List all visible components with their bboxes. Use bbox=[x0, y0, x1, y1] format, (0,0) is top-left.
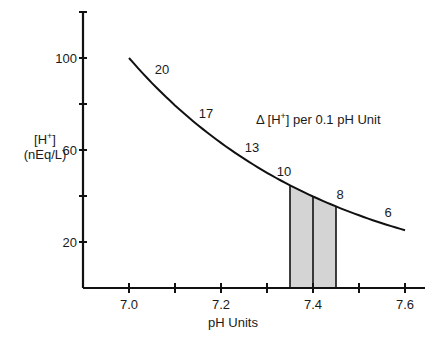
y-tick-label: 100 bbox=[55, 51, 77, 66]
x-tick-label: 7.4 bbox=[304, 297, 322, 312]
series-line-layer bbox=[129, 58, 405, 230]
x-tick-label: 7.0 bbox=[120, 297, 138, 312]
segment-label: 6 bbox=[384, 205, 391, 220]
x-tick-label: 7.2 bbox=[212, 297, 230, 312]
y-axis-title-line1: [H+] bbox=[34, 131, 56, 147]
ticks: 20601007.07.27.47.6 bbox=[55, 12, 414, 312]
x-axis-title: pH Units bbox=[208, 315, 258, 330]
segment-label: 13 bbox=[245, 140, 259, 155]
y-tick-label: 20 bbox=[63, 235, 77, 250]
segment-labels: 2017131086 bbox=[155, 62, 392, 220]
series-line bbox=[129, 58, 405, 230]
annotation-label: Δ [H+] per 0.1 pH Unit bbox=[256, 111, 381, 127]
x-tick-label: 7.6 bbox=[396, 297, 414, 312]
shaded-region bbox=[290, 185, 336, 288]
y-axis-title-line2: (nEq/L) bbox=[24, 147, 67, 162]
segment-label: 17 bbox=[199, 106, 213, 121]
chart: 20601007.07.27.47.6 2017131086 Δ [H+] pe… bbox=[0, 0, 432, 340]
segment-label: 20 bbox=[155, 62, 169, 77]
segment-label: 8 bbox=[336, 187, 343, 202]
segment-label: 10 bbox=[277, 164, 291, 179]
